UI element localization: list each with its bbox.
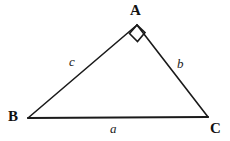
side-c-line	[28, 25, 137, 118]
side-b-line	[137, 25, 208, 117]
vertex-label-a: A	[130, 3, 141, 18]
side-label-b: b	[177, 57, 184, 70]
triangle-drawing	[0, 0, 230, 141]
side-label-c: c	[69, 55, 75, 68]
side-label-a: a	[110, 122, 117, 135]
vertex-label-c: C	[210, 121, 221, 136]
side-a-line	[28, 117, 208, 118]
right-triangle-figure: A B C a b c	[0, 0, 230, 141]
vertex-label-b: B	[8, 109, 18, 124]
